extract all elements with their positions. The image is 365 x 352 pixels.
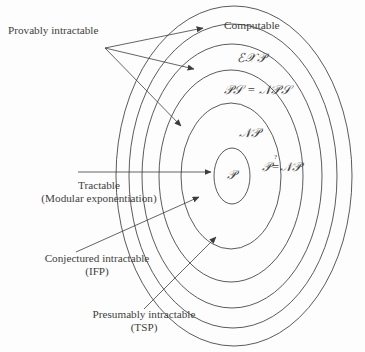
annotation-tractable-line2: (Modular exponentiation) [18, 192, 180, 205]
label-exp: ℰ𝒳𝒫 [237, 51, 266, 66]
annotation-tractable-line1: Tractable [18, 179, 180, 192]
label-np: 𝒩𝒫 [239, 126, 261, 141]
annotation-tractable: Tractable (Modular exponentiation) [18, 179, 180, 205]
label-pspace: 𝒫𝒮 = 𝒩𝒫𝒮 [224, 83, 291, 98]
arrow-provably-2 [105, 48, 194, 69]
label-p-versus-np: 𝒫?=𝒩𝒫 [262, 160, 302, 175]
annotation-conjectured-line1: Conjectured intractable [12, 252, 182, 265]
arrow-provably-3 [105, 48, 181, 126]
annotation-provably-line1: Provably intractable [8, 24, 98, 37]
label-p-versus-np-left: 𝒫 [262, 160, 271, 174]
equals-glyph: = [271, 160, 280, 174]
annotation-conjectured-intractable: Conjectured intractable (IFP) [12, 252, 182, 278]
label-computable: Computable [224, 19, 280, 32]
complexity-class-figure: Computable ℰ𝒳𝒫 𝒫𝒮 = 𝒩𝒫𝒮 𝒩𝒫 𝒫 𝒫?=𝒩𝒫 Prova… [0, 0, 365, 352]
question-mark-glyph: ? [274, 153, 277, 161]
annotation-presumably-line1: Presumably intractable [58, 308, 230, 321]
label-p-versus-np-right: 𝒩𝒫 [280, 160, 302, 174]
nested-ellipses-diagram [0, 0, 365, 352]
annotation-presumably-intractable: Presumably intractable (TSP) [58, 308, 230, 334]
annotation-presumably-line2: (TSP) [58, 321, 230, 334]
label-p-versus-np-relation: ?= [271, 160, 280, 175]
arrow-provably-1 [105, 28, 203, 48]
annotation-conjectured-line2: (IFP) [12, 265, 182, 278]
annotation-provably-intractable: Provably intractable [8, 24, 98, 37]
label-p: 𝒫 [227, 168, 236, 183]
